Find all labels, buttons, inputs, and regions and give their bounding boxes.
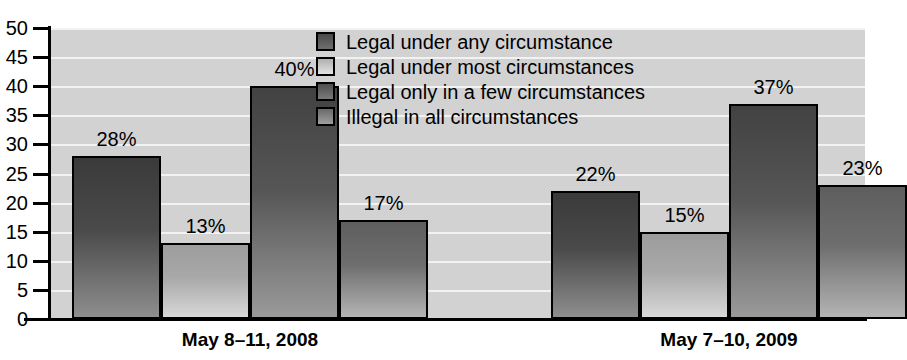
y-axis-tick-label: 25 bbox=[0, 164, 28, 184]
bar bbox=[818, 185, 907, 319]
bar-value-label: 37% bbox=[729, 77, 818, 97]
y-axis-tick-mark bbox=[33, 56, 49, 59]
y-axis-tick-mark bbox=[33, 318, 49, 321]
legend-item-label: Legal only in a few circumstances bbox=[346, 82, 645, 102]
y-axis-tick-mark bbox=[33, 143, 49, 146]
bar-value-label: 28% bbox=[72, 129, 161, 149]
legend-item-label: Legal under any circumstance bbox=[346, 32, 613, 52]
y-axis-tick-label: 35 bbox=[0, 105, 28, 125]
bar-value-label: 23% bbox=[818, 158, 907, 178]
y-axis-tick-mark bbox=[33, 85, 49, 88]
bar-value-label: 13% bbox=[161, 216, 250, 236]
y-axis-tick-mark bbox=[33, 231, 49, 234]
legend-item: Legal under any circumstance bbox=[316, 30, 645, 53]
y-axis-tick-label: 50 bbox=[0, 18, 28, 38]
legend-item: Illegal in all circumstances bbox=[316, 105, 645, 128]
bar-value-label: 22% bbox=[551, 164, 640, 184]
bar bbox=[339, 220, 428, 319]
bar bbox=[551, 191, 640, 319]
legend-swatch-icon bbox=[316, 82, 335, 101]
legend-swatch-icon bbox=[316, 32, 335, 51]
category-label: May 7–10, 2009 bbox=[551, 330, 907, 349]
y-axis-tick-mark bbox=[33, 27, 49, 30]
y-axis-tick-label: 5 bbox=[0, 280, 28, 300]
y-axis-tick-label: 30 bbox=[0, 134, 28, 154]
y-axis-tick-label: 20 bbox=[0, 193, 28, 213]
bar-value-label: 17% bbox=[339, 193, 428, 213]
chart-legend: Legal under any circumstanceLegal under … bbox=[316, 30, 645, 128]
y-axis-tick-label: 10 bbox=[0, 251, 28, 271]
y-axis-tick-mark bbox=[33, 260, 49, 263]
legend-item: Legal only in a few circumstances bbox=[316, 80, 645, 103]
bar bbox=[729, 104, 818, 319]
y-axis-tick-mark bbox=[33, 114, 49, 117]
legend-swatch-icon bbox=[316, 57, 335, 76]
y-axis-tick-mark bbox=[33, 289, 49, 292]
y-axis-tick-label: 45 bbox=[0, 47, 28, 67]
y-axis-tick-mark bbox=[33, 173, 49, 176]
bar bbox=[161, 243, 250, 319]
legend-swatch-icon bbox=[316, 107, 335, 126]
y-axis-tick-label: 40 bbox=[0, 76, 28, 96]
legend-item-label: Illegal in all circumstances bbox=[346, 107, 578, 127]
bar bbox=[640, 232, 729, 319]
bar bbox=[72, 156, 161, 319]
legend-item-label: Legal under most circumstances bbox=[346, 57, 634, 77]
bar-value-label: 15% bbox=[640, 205, 729, 225]
legend-item: Legal under most circumstances bbox=[316, 55, 645, 78]
category-label: May 8–11, 2008 bbox=[72, 330, 428, 349]
y-axis-tick-mark bbox=[33, 202, 49, 205]
y-axis-tick-label: 15 bbox=[0, 222, 28, 242]
y-axis-tick-label: 0 bbox=[0, 309, 28, 329]
